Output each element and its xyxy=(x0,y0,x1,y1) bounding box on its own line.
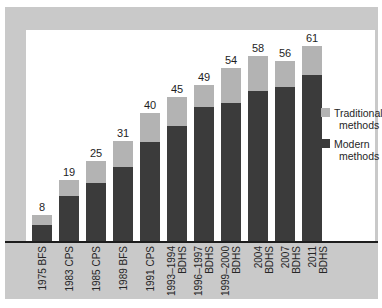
bar-total-label: 25 xyxy=(79,147,113,159)
modern-methods-swatch-icon xyxy=(321,139,330,148)
bar-segment-traditional xyxy=(86,161,106,183)
bar-segment-modern xyxy=(113,167,133,241)
bar-total-label: 8 xyxy=(25,201,59,213)
x-axis-tick-label: 1996–1997 BDHS xyxy=(193,246,215,298)
bar-segment-modern xyxy=(302,75,322,241)
legend-label-modern: Modern methods xyxy=(334,138,379,162)
bar-total-label: 61 xyxy=(295,32,329,44)
bar-segment-modern xyxy=(221,103,241,241)
bar-total-label: 19 xyxy=(52,166,86,178)
x-axis-tick-label: 1993–1994 BDHS xyxy=(166,246,188,298)
bar-total-label: 45 xyxy=(160,83,194,95)
x-axis-tick-label: 1999–2000 BDHS xyxy=(220,246,242,298)
legend-item-traditional: Traditional methods xyxy=(321,107,377,131)
bar-total-label: 31 xyxy=(106,127,140,139)
bar-total-label: 40 xyxy=(133,99,167,111)
x-axis-tick-label: 1991 CPS xyxy=(145,246,156,298)
stacked-bar xyxy=(194,85,214,241)
stacked-bar xyxy=(59,180,79,241)
bar-total-label: 49 xyxy=(187,71,221,83)
bar-segment-modern xyxy=(86,183,106,241)
stacked-bar xyxy=(86,161,106,241)
chart-panel: 819253140454954585661 1975 BFS1983 CPS19… xyxy=(5,7,378,299)
legend: Traditional methods Modern methods xyxy=(321,107,377,169)
bar-segment-modern xyxy=(248,91,268,241)
traditional-methods-swatch-icon xyxy=(321,108,330,117)
x-axis-tick-label: 1989 BFS xyxy=(118,246,129,298)
bar-segment-traditional xyxy=(275,61,295,87)
bar-segment-traditional xyxy=(167,97,187,126)
bar-segment-traditional xyxy=(140,113,160,142)
bar-segment-modern xyxy=(32,225,52,241)
stacked-bar xyxy=(167,97,187,241)
bar-segment-modern xyxy=(59,196,79,241)
bar-segment-traditional xyxy=(32,215,52,225)
bar-total-label: 56 xyxy=(268,47,302,59)
x-axis-tick-label: 1985 CPS xyxy=(91,246,102,298)
x-axis-tick-label: 1975 BFS xyxy=(37,246,48,298)
figure-canvas: 819253140454954585661 1975 BFS1983 CPS19… xyxy=(0,0,382,308)
stacked-bar xyxy=(140,113,160,241)
bar-segment-traditional xyxy=(221,68,241,103)
legend-label-traditional: Traditional methods xyxy=(334,107,382,131)
stacked-bar xyxy=(113,141,133,241)
bar-segment-traditional xyxy=(194,85,214,107)
x-axis-tick-label: 2007 BDHS xyxy=(280,246,302,298)
bar-segment-modern xyxy=(140,142,160,241)
x-axis-tick-label: 2011 BDHS xyxy=(307,246,329,298)
x-axis-tick-label: 1983 CPS xyxy=(64,246,75,298)
bar-total-label: 54 xyxy=(214,54,248,66)
x-axis-tick-label: 2004 BDHS xyxy=(253,246,275,298)
bar-segment-modern xyxy=(275,87,295,241)
bar-segment-traditional xyxy=(113,141,133,167)
stacked-bar xyxy=(302,46,322,241)
x-axis-line xyxy=(5,241,378,243)
stacked-bar xyxy=(248,56,268,241)
bar-segment-modern xyxy=(194,107,214,241)
bar-segment-traditional xyxy=(248,56,268,91)
bar-segment-traditional xyxy=(59,180,79,196)
stacked-bar xyxy=(221,68,241,241)
bar-segment-traditional xyxy=(302,46,322,75)
legend-item-modern: Modern methods xyxy=(321,138,377,162)
stacked-bar xyxy=(32,215,52,241)
stacked-bar xyxy=(275,61,295,241)
bar-segment-modern xyxy=(167,126,187,241)
